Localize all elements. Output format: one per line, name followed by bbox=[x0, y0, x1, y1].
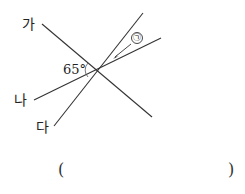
diagram-canvas bbox=[0, 0, 245, 194]
marked-angle-symbol: ㉠ bbox=[133, 31, 141, 42]
angle-value: 65° bbox=[63, 62, 86, 77]
answer-open-paren: ( bbox=[58, 160, 64, 179]
label-ga: 가 bbox=[22, 17, 35, 31]
answer-close-paren: ) bbox=[228, 160, 234, 179]
label-da: 다 bbox=[36, 120, 49, 134]
label-na: 나 bbox=[14, 93, 27, 107]
line-na bbox=[34, 38, 161, 100]
